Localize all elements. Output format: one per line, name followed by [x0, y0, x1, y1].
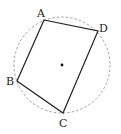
vertex-label-b: B [6, 75, 14, 88]
vertex-label-a: A [36, 7, 46, 20]
center-point [61, 64, 64, 67]
vertex-label-d: D [99, 22, 108, 35]
vertex-label-c: C [59, 117, 67, 130]
diagram-canvas: A D C B [0, 0, 121, 134]
quadrilateral-abcd [17, 20, 98, 113]
quadrilateral-diagram: A D C B [0, 0, 121, 134]
